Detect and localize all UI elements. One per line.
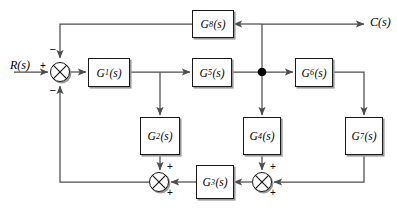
block-g7[interactable]: G7(s) [345, 117, 383, 155]
block-g1-tail: (s) [109, 67, 121, 79]
wire-g7-to-sum-right [274, 155, 364, 182]
wire-sumleft-feedback [60, 86, 149, 182]
input-signal-label: R(s) [10, 58, 30, 73]
block-g6-tail: (s) [314, 67, 326, 79]
sign-main-top-minus: – [50, 44, 56, 54]
block-g4-tail: (s) [262, 130, 274, 142]
sign-left-bottom-bottom-plus: + [167, 188, 173, 198]
block-g6-main: G [301, 67, 309, 79]
block-g1-main: G [96, 67, 104, 79]
wire-g8-feedback [60, 24, 192, 58]
wire-g6-to-g7 [333, 72, 364, 115]
output-signal-label: C(s) [370, 15, 391, 30]
block-g8-main: G [200, 18, 208, 30]
block-g5-main: G [199, 67, 207, 79]
block-g5[interactable]: G5(s) [192, 58, 232, 87]
block-g3-main: G [202, 176, 210, 188]
block-g7-main: G [351, 130, 359, 142]
block-g3-tail: (s) [215, 176, 227, 188]
summing-junction-main-cross [50, 62, 70, 82]
block-g1[interactable]: G1(s) [88, 58, 130, 87]
block-g2[interactable]: G2(s) [140, 117, 180, 155]
pickoff-node [258, 68, 267, 77]
block-g2-tail: (s) [160, 130, 172, 142]
block-g5-tail: (s) [212, 67, 224, 79]
sign-right-bottom-bottom-plus: + [270, 188, 276, 198]
block-g7-tail: (s) [364, 130, 376, 142]
sign-left-bottom-top-plus: + [167, 162, 173, 172]
summing-junction-left-bottom-cross [149, 172, 169, 192]
block-g4[interactable]: G4(s) [243, 117, 281, 155]
block-g3[interactable]: G3(s) [196, 165, 234, 199]
sign-main-input-plus: + [40, 61, 46, 71]
block-g6[interactable]: G6(s) [295, 58, 333, 87]
sign-right-bottom-top-plus: + [270, 162, 276, 172]
block-diagram-canvas: R(s) C(s) + – – + + + + G1(s) G2(s) G3(s… [0, 0, 397, 211]
block-g8[interactable]: G8(s) [192, 10, 234, 38]
block-g4-main: G [249, 130, 257, 142]
block-g2-main: G [147, 130, 155, 142]
block-g8-tail: (s) [213, 18, 225, 30]
summing-junction-right-bottom-cross [252, 172, 272, 192]
sign-main-bottom-minus: – [50, 85, 56, 95]
